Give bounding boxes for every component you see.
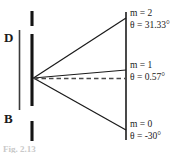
ray-order-m2 [34,18,127,78]
detector-label: D [4,31,13,44]
diffraction-grating-figure: D B m = 2 θ = 31.33° m = 1 θ = 0.57° m =… [0,0,183,153]
order-annotation-m1: m = 1 θ = 0.57° [130,60,165,83]
order-label-m1: m = 1 [130,60,165,72]
ray-order-m0 [34,78,127,130]
beam-label: B [4,112,13,125]
ray-order-m1 [34,70,127,78]
order-label-m0: m = 0 [130,119,161,131]
order-annotation-m0: m = 0 θ = -30° [130,119,161,142]
angle-label-m0: θ = -30° [130,131,161,143]
angle-label-m2: θ = 31.33° [130,20,170,32]
order-annotation-m2: m = 2 θ = 31.33° [130,8,170,31]
figure-caption: Fig. 2.13 [3,144,36,153]
angle-label-m1: θ = 0.57° [130,72,165,84]
order-label-m2: m = 2 [130,8,170,20]
